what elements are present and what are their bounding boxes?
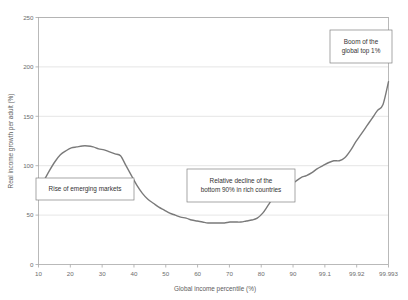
y-tick-label: 150 — [23, 113, 34, 120]
annotation-label: bottom 90% in rich countries — [201, 186, 282, 193]
annotation-label: Boom of the — [344, 38, 379, 45]
elephant-curve-chart: 050100150200250 10203040506070809099.199… — [0, 0, 408, 300]
y-axis-title: Real income growth per adult (%) — [7, 94, 15, 189]
x-tick-label: 80 — [258, 270, 265, 277]
x-tick-label: 90 — [290, 270, 297, 277]
x-tick-label: 50 — [162, 270, 169, 277]
annotation-label: Relative decline of the — [210, 177, 273, 184]
chart-canvas: 050100150200250 10203040506070809099.199… — [0, 0, 408, 300]
y-tick-label: 250 — [23, 14, 34, 21]
x-tick-label: 99.1 — [319, 270, 332, 277]
annotation-label: global top 1% — [342, 47, 381, 55]
y-tick-label: 50 — [27, 211, 34, 218]
x-tick-label: 10 — [35, 270, 42, 277]
x-tick-label: 70 — [226, 270, 233, 277]
annotation-label: Rise of emerging markets — [49, 185, 122, 193]
x-axis-title: Global income percentile (%) — [174, 285, 256, 293]
y-tick-label: 200 — [23, 63, 34, 70]
x-tick-label: 40 — [131, 270, 138, 277]
y-tick-label: 100 — [23, 162, 34, 169]
annotation-relative-decline: Relative decline of thebottom 90% in ric… — [187, 169, 295, 202]
x-tick-label: 20 — [67, 270, 74, 277]
x-tick-label: 99.993 — [379, 270, 398, 277]
y-tick-label: 0 — [30, 261, 34, 268]
x-tick-label: 30 — [99, 270, 106, 277]
annotation-boom-of-global-top-1: Boom of theglobal top 1% — [330, 30, 392, 63]
x-tick-label: 60 — [194, 270, 201, 277]
annotation-rise-of-emerging-markets: Rise of emerging markets — [36, 178, 134, 200]
x-tick-label: 99.92 — [349, 270, 365, 277]
